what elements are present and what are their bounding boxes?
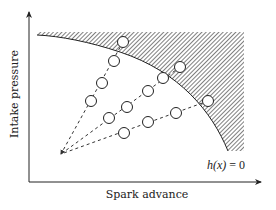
point-ray2-1 bbox=[104, 113, 115, 124]
constraint-func: h(x) bbox=[207, 158, 226, 172]
diagram: h(x) = 0 Spark advance Intake pressure bbox=[0, 0, 276, 210]
point-ray3-3 bbox=[171, 108, 182, 119]
x-axis-label: Spark advance bbox=[106, 188, 189, 201]
point-ray2-3 bbox=[143, 86, 154, 97]
point-ray2-2 bbox=[122, 102, 133, 113]
point-ray3-2 bbox=[143, 117, 154, 128]
point-ray1-1 bbox=[86, 96, 97, 107]
point-ray2-5 bbox=[175, 62, 186, 73]
point-ray3-1 bbox=[119, 128, 130, 139]
point-ray3-4 bbox=[203, 96, 214, 107]
point-ray2-4 bbox=[158, 73, 169, 84]
ray-3-line bbox=[61, 101, 208, 154]
point-ray1-3 bbox=[109, 56, 120, 67]
infeasible-region bbox=[37, 32, 244, 151]
constraint-label: h(x) = 0 bbox=[207, 158, 245, 172]
point-ray1-2 bbox=[97, 78, 108, 89]
constraint-rel: = 0 bbox=[226, 158, 245, 172]
y-axis-label: Intake pressure bbox=[8, 50, 21, 138]
point-ray1-4 bbox=[118, 37, 129, 48]
